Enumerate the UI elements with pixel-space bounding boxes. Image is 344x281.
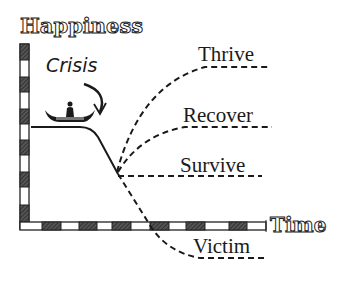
- y-axis-label: Happiness: [20, 15, 143, 36]
- y-axis: [20, 44, 29, 229]
- outcome-victim-label: Victim: [193, 236, 250, 257]
- outcome-recover-label: Recover: [183, 105, 253, 126]
- x-axis-label: Time: [270, 215, 326, 235]
- canoe-icon: [45, 102, 95, 123]
- outcome-thrive-label: Thrive: [198, 44, 254, 65]
- diagram-graphics: [0, 0, 344, 281]
- crisis-label: Crisis: [46, 56, 97, 75]
- outcome-survive-label: Survive: [180, 155, 245, 176]
- happiness-curve: [31, 127, 118, 174]
- crisis-arrow-icon: [84, 84, 106, 114]
- resilience-diagram: Happiness Crisis Thrive Recover Survive …: [0, 0, 344, 281]
- x-axis: [20, 220, 266, 232]
